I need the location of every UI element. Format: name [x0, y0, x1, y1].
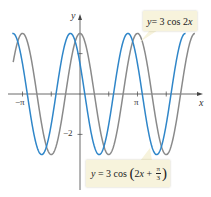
- y-tick-label-neg2: −2: [63, 128, 73, 138]
- callout2-fraction: π3: [156, 165, 162, 182]
- callout1-pointer: [140, 30, 158, 42]
- y-axis-arrow-icon: [78, 14, 82, 20]
- callout2-close-paren: ): [162, 166, 167, 181]
- y-axis-label: y: [71, 10, 75, 21]
- callout-blue-curve: y = 3 cos (2x + π3): [86, 160, 170, 187]
- callout2-plus: +: [144, 168, 155, 179]
- callout-gray-curve: y = 3 cos 2x: [143, 11, 197, 31]
- callout2-num: π: [156, 165, 162, 174]
- callout1-var: x: [188, 16, 192, 27]
- callout2-text: = 3 cos: [95, 168, 129, 179]
- x-tick-label-neg-pi: −π: [15, 97, 25, 107]
- callout2-den: 3: [157, 174, 161, 182]
- x-axis-label: x: [199, 97, 203, 108]
- x-axis-arrow-icon: [197, 92, 203, 96]
- callout1-text: = 3 cos 2: [151, 16, 187, 27]
- x-tick-label-pi: π: [134, 97, 139, 107]
